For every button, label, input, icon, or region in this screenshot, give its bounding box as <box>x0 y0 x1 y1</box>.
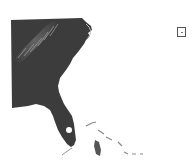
relief-map <box>0 0 194 167</box>
box-center-dot <box>181 32 183 33</box>
florida-keys <box>62 148 72 155</box>
lake-okeechobee <box>66 127 72 133</box>
bahamas <box>86 122 143 154</box>
mainland-landmass <box>11 18 92 147</box>
square-box-icon <box>177 27 186 37</box>
andros-island <box>94 140 101 156</box>
